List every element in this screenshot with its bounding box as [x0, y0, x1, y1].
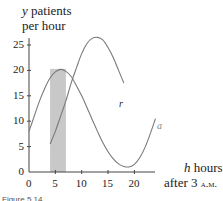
- y-tick-label: 25: [13, 38, 24, 51]
- y-axis-label-line1: y patients: [22, 4, 71, 17]
- shaded-region: [50, 69, 66, 172]
- y-tick-label: 10: [13, 114, 24, 127]
- y-axis-label-line2: per hour: [22, 19, 66, 32]
- figure-caption: Figure 5.14: [2, 195, 42, 201]
- shaded-area: [50, 69, 66, 172]
- y-tick-label: 20: [13, 63, 24, 76]
- y-axis-label-text: patients: [28, 3, 72, 18]
- x-axis-label-after: after 3: [164, 175, 201, 190]
- y-tick-label: 0: [19, 165, 25, 178]
- x-tick-label: 5: [52, 177, 58, 190]
- x-tick-label: 20: [128, 177, 139, 190]
- curve-label-a: a: [157, 119, 162, 132]
- y-tick-label: 15: [13, 89, 24, 102]
- curves: [29, 37, 155, 167]
- axes: [27, 38, 155, 174]
- x-axis-label-line1: h hours: [184, 161, 223, 174]
- x-tick-label: 10: [76, 177, 87, 190]
- x-axis-label-text: hours: [191, 160, 223, 175]
- x-axis-label-am: a.m.: [201, 178, 217, 189]
- y-tick-label: 5: [19, 140, 25, 153]
- x-axis-label-line2: after 3 a.m.: [164, 176, 217, 190]
- x-tick-label: 0: [26, 177, 32, 190]
- curve-label-r: r: [119, 97, 123, 110]
- x-tick-label: 15: [102, 177, 113, 190]
- curve-a: [29, 69, 155, 167]
